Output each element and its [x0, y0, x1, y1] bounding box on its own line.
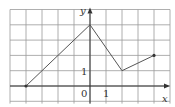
- x-tick-label: 1: [103, 88, 109, 99]
- y-axis-label: y: [79, 5, 86, 16]
- origin-label: 0: [81, 88, 87, 99]
- function-graph: y x 0 1 1: [0, 0, 175, 107]
- x-axis-label: x: [162, 93, 168, 104]
- y-tick-label: 1: [81, 66, 87, 77]
